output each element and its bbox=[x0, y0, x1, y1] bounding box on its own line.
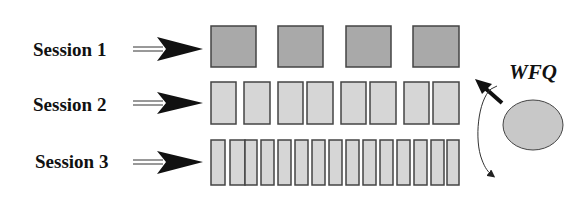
packet bbox=[329, 140, 342, 185]
packet bbox=[397, 140, 410, 185]
session-2-arrow bbox=[133, 92, 203, 114]
packet bbox=[211, 26, 256, 67]
packet bbox=[346, 26, 391, 67]
packet bbox=[307, 82, 333, 124]
wfq-diagram: Session 1 Session 2 Session 3 WFQ bbox=[0, 0, 587, 207]
packet bbox=[433, 82, 459, 124]
packet bbox=[278, 82, 303, 124]
session-2-label: Session 2 bbox=[33, 94, 106, 115]
packet bbox=[413, 26, 459, 67]
session-2-queue bbox=[211, 82, 459, 124]
packet bbox=[261, 140, 274, 185]
packet bbox=[370, 82, 396, 124]
rotation-arc-icon bbox=[478, 89, 492, 175]
packet bbox=[431, 140, 444, 185]
server-circle bbox=[503, 100, 563, 150]
packet bbox=[447, 140, 459, 185]
packet bbox=[295, 140, 308, 185]
wfq-label: WFQ bbox=[509, 60, 557, 84]
packet bbox=[244, 82, 270, 124]
packet bbox=[312, 140, 325, 185]
packet bbox=[211, 140, 225, 185]
session-3-queue bbox=[211, 140, 459, 185]
packet bbox=[346, 140, 359, 185]
session-1-queue bbox=[211, 26, 459, 67]
packet bbox=[341, 82, 366, 124]
packet bbox=[380, 140, 393, 185]
packet bbox=[245, 140, 257, 185]
packet bbox=[230, 140, 245, 185]
session-3-arrow bbox=[133, 151, 203, 174]
packet bbox=[211, 82, 236, 124]
packet bbox=[363, 140, 376, 185]
session-1-arrow bbox=[133, 37, 203, 61]
session-1-label: Session 1 bbox=[33, 39, 106, 60]
session-3-label: Session 3 bbox=[35, 151, 108, 172]
packet bbox=[278, 26, 323, 67]
packet bbox=[414, 140, 427, 185]
packet bbox=[404, 82, 429, 124]
packet bbox=[278, 140, 291, 185]
